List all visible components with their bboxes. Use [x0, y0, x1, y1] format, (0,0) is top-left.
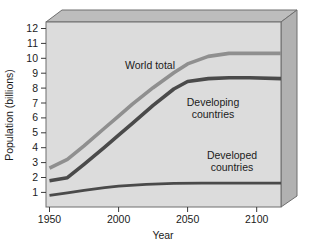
y-tick-11: 11: [27, 37, 38, 49]
series-label-developing-line2: countries: [192, 108, 235, 120]
y-axis-tick-labels: 12 11 10 9 8 7 6 5 4 3 2 1: [26, 22, 38, 198]
chart-container: 12 11 10 9 8 7 6 5 4 3 2 1 1950 2000 205…: [0, 0, 314, 243]
y-axis-title: Population (billions): [3, 69, 15, 161]
y-tick-8: 8: [32, 82, 38, 94]
population-projection-chart: 12 11 10 9 8 7 6 5 4 3 2 1 1950 2000 205…: [0, 0, 314, 243]
y-tick-7: 7: [32, 97, 38, 109]
series-label-developing-line1: Developing: [187, 96, 240, 108]
series-label-developed-line1: Developed: [207, 149, 257, 161]
y-tick-12: 12: [26, 22, 38, 34]
plot-top-face: [46, 10, 297, 22]
x-tick-2000: 2000: [107, 213, 131, 225]
x-axis-tick-labels: 1950 2000 2050 2100: [38, 213, 269, 225]
x-axis-ticks: [50, 207, 257, 212]
x-axis-title: Year: [152, 229, 174, 241]
y-axis-ticks: [41, 29, 46, 193]
y-tick-10: 10: [26, 52, 38, 64]
y-tick-5: 5: [32, 126, 38, 138]
y-tick-6: 6: [32, 111, 38, 123]
x-tick-2100: 2100: [245, 213, 269, 225]
y-tick-4: 4: [32, 141, 38, 153]
series-label-developed-line2: countries: [211, 161, 254, 173]
y-tick-1: 1: [32, 186, 38, 198]
y-tick-3: 3: [32, 156, 38, 168]
x-tick-2050: 2050: [176, 213, 200, 225]
series-label-world-total: World total: [125, 59, 175, 71]
x-tick-1950: 1950: [38, 213, 62, 225]
plot-right-face: [281, 10, 297, 207]
y-tick-2: 2: [32, 171, 38, 183]
y-tick-9: 9: [32, 67, 38, 79]
plot-face: [46, 22, 281, 207]
